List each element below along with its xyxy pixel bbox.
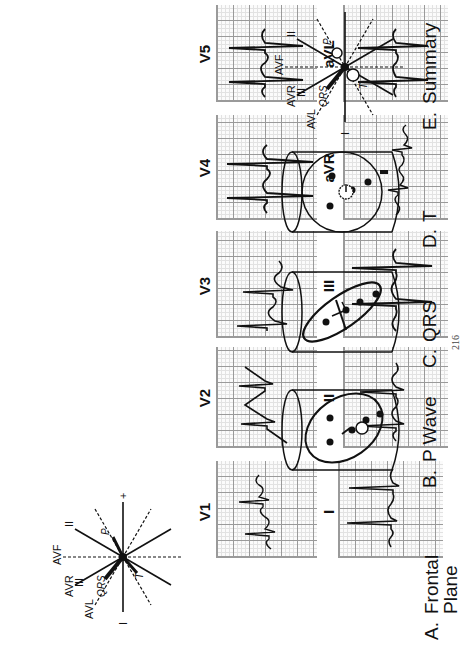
panel-caption-a: A.Frontal Plane [422,555,460,640]
panel-title-b: P Wave [419,397,440,462]
panel-title-d: T [419,210,440,222]
t-wave-cylinder-diagram [280,132,410,252]
panel-caption-c: C.QRS [420,301,439,368]
lead-label-V1-text: V1 [196,503,213,521]
panel-title-e: Summary [419,23,440,104]
plus-sign: + [117,493,129,499]
lead-label-V3-text: V3 [196,277,213,295]
lead-I-label: I [117,622,129,625]
summary-aVL-label: AVL [305,109,317,129]
lead-label-V4-text: V4 [196,159,213,177]
lead-II-label: II [63,521,75,527]
panel-caption-d: D.T [420,210,439,248]
summary-lead-III-label: III [295,88,307,97]
panel-title-a-line2: Plane [440,565,461,614]
panel-letter-e: E. [420,104,439,130]
panel-title-c: QRS [419,301,440,342]
lead-label-V2-text: V2 [196,389,213,407]
summary-axis-diagram: I AVR II AVF AVL III QRS T P [270,0,420,142]
lead-label-V5: V5 [196,24,213,84]
lead-label-V1: V1 [196,482,213,542]
panel-letter-b: B. [420,462,439,488]
panel-caption-b: B.P Wave [420,397,439,488]
panel-letter-a: A. [422,614,441,640]
lead-label-V5-text: V5 [196,45,213,63]
panel-caption-e: E.Summary [420,23,439,130]
t-vector-label: T [134,572,145,579]
summary-t-label: T [358,82,369,89]
p-vector-label: P [100,528,111,535]
aVL-label: AVL [83,599,95,619]
panel-title-a-line1: Frontal [421,555,442,614]
panel-letter-c: C. [420,342,439,368]
p-wave-cylinder-diagram [280,370,410,490]
textbook-figure-page: I I II III aVR aVL [0,0,470,650]
frontal-plane-axis-diagram: + I AVR II AVF AVL III QRS T P [48,482,198,632]
lead-III-label: III [73,578,85,587]
qrs-cylinder-diagram [280,252,410,372]
qrs-vector-label: QRS [96,575,107,597]
aVF-label: AVF [51,544,63,565]
summary-lead-II-label: II [285,31,297,37]
panel-letter-d: D. [420,222,439,248]
lead-label-I: I [320,482,337,542]
summary-aVF-label: AVF [273,54,285,75]
summary-lead-I-label: I [339,132,351,135]
summary-p-label: P [322,38,333,45]
lead-label-V4: V4 [196,138,213,198]
summary-qrs-label: QRS [318,85,329,107]
page-number: 216 [450,335,461,350]
lead-label-V3: V3 [196,256,213,316]
lead-label-V2: V2 [196,368,213,428]
